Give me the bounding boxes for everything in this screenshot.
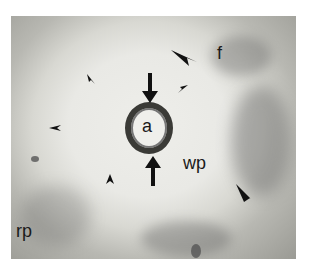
- arrow-down-icon: [142, 73, 158, 103]
- label-a: a: [142, 117, 152, 135]
- small-arrowhead-icon: [106, 174, 114, 184]
- label-f: f: [217, 44, 222, 62]
- label-wp: wp: [183, 154, 206, 172]
- small-arrowhead-icon: [87, 74, 95, 84]
- small-arrowhead-icon: [178, 85, 188, 93]
- micrograph: a wp rp f: [11, 16, 296, 259]
- arrowhead-icon: [236, 184, 258, 206]
- arrowhead-icon: [171, 50, 197, 66]
- small-arrowhead-icon: [49, 125, 61, 131]
- arrow-up-icon: [145, 156, 161, 186]
- label-rp: rp: [16, 222, 32, 240]
